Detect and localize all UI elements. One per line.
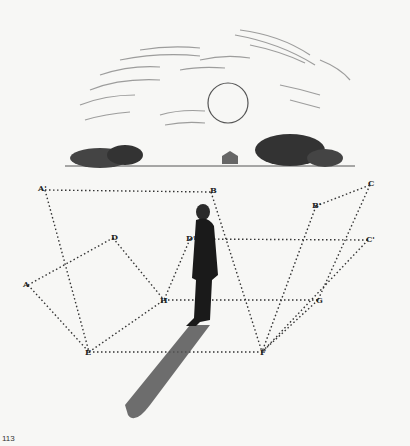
point-label-a-prime: A'	[38, 183, 47, 193]
man-figure	[186, 204, 218, 326]
point-label-c: C	[368, 178, 374, 188]
illustration	[0, 0, 410, 446]
point-label-h: H	[160, 295, 168, 305]
point-label-b: B	[210, 185, 217, 195]
point-label-d: D	[111, 232, 118, 242]
point-label-d-prime: D'	[186, 233, 195, 243]
point-label-a: A	[23, 279, 29, 289]
man-shadow	[125, 325, 210, 418]
sun	[208, 83, 248, 123]
page-number: 113	[2, 434, 15, 443]
point-label-e: E	[85, 347, 91, 357]
clouds	[80, 30, 350, 125]
point-label-g: G	[316, 295, 323, 305]
horizon	[65, 134, 355, 168]
point-label-c-prime: C'	[366, 234, 375, 244]
point-label-f: F	[260, 347, 266, 357]
point-label-b-prime: B'	[312, 200, 321, 210]
